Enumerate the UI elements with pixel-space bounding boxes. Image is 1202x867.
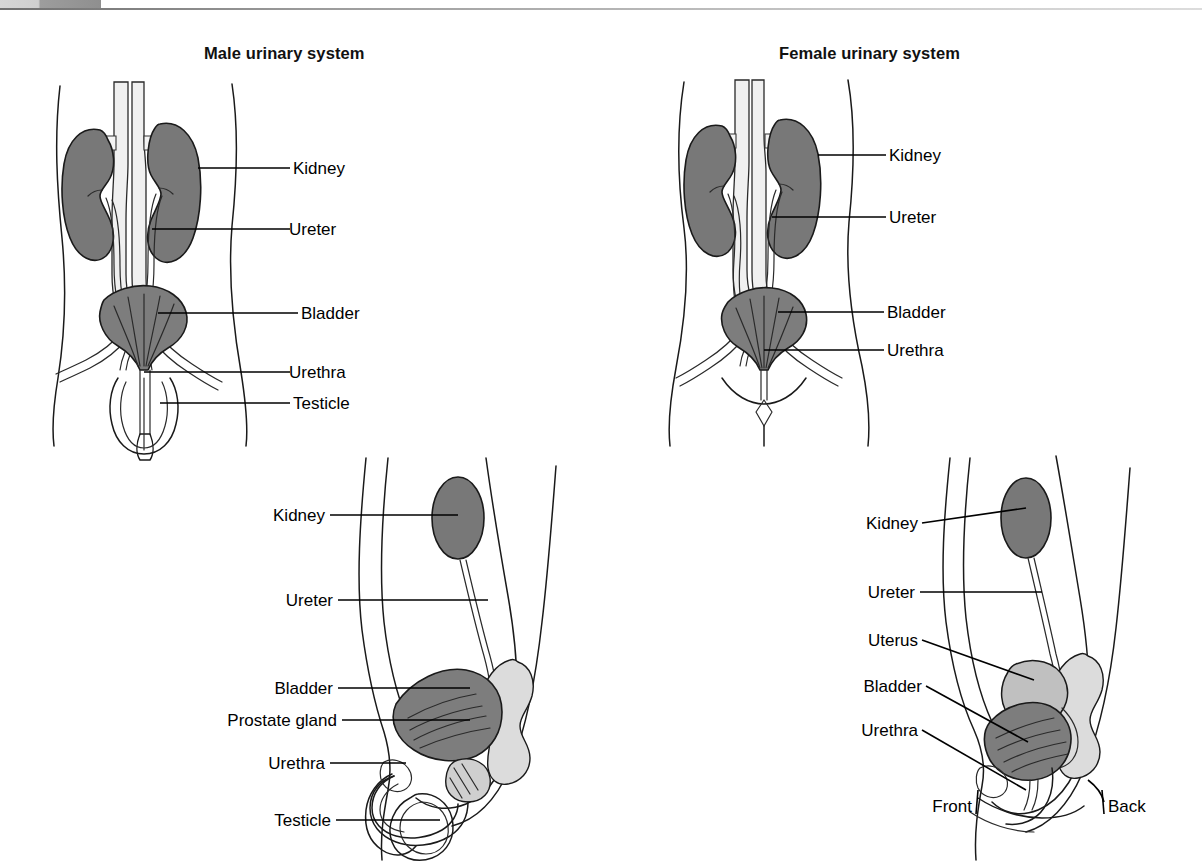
male-side-labels: Kidney Ureter Bladder Prostate gland Ure… <box>227 506 337 830</box>
female-front-urethra-perineum <box>722 370 806 446</box>
label-ureter: Ureter <box>286 591 334 610</box>
label-bladder: Bladder <box>887 303 946 322</box>
male-front-labels: Kidney Ureter Bladder Urethra Testicle <box>289 159 360 413</box>
label-urethra: Urethra <box>887 341 944 360</box>
page-title-male-urinary-system: Male urinary system <box>204 44 365 63</box>
label-testicle: Testicle <box>274 811 331 830</box>
page-title-female-urinary-system: Female urinary system <box>779 44 960 63</box>
female-front-kidney-right <box>768 119 821 258</box>
male-front-urethra-penis-scrotum <box>110 370 178 460</box>
label-testicle: Testicle <box>293 394 350 413</box>
male-front-bladder <box>100 286 187 370</box>
label-back: Back <box>1108 797 1146 816</box>
label-prostate-gland: Prostate gland <box>227 711 337 730</box>
label-urethra: Urethra <box>289 363 346 382</box>
figure-male-urinary-side-view: Kidney Ureter Bladder Prostate gland Ure… <box>170 450 600 865</box>
male-front-kidney-left <box>62 129 114 260</box>
female-front-kidney-left <box>684 125 736 256</box>
figure-male-urinary-front-view: Kidney Ureter Bladder Urethra Testicle <box>40 78 460 448</box>
male-side-kidney <box>432 477 484 559</box>
label-bladder: Bladder <box>863 677 922 696</box>
label-uterus: Uterus <box>868 631 918 650</box>
label-bladder: Bladder <box>301 304 360 323</box>
label-kidney: Kidney <box>866 514 918 533</box>
label-kidney: Kidney <box>273 506 325 525</box>
figure-female-urinary-side-view: Kidney Ureter Uterus Bladder Urethra Fro… <box>830 450 1202 865</box>
male-side-testicle-scrotum <box>390 794 453 861</box>
label-ureter: Ureter <box>289 220 337 239</box>
male-side-bladder <box>393 669 502 760</box>
male-side-prostate-gland <box>446 759 491 802</box>
figure-female-urinary-front-view: Kidney Ureter Bladder Urethra <box>650 78 1070 448</box>
label-kidney: Kidney <box>293 159 345 178</box>
male-front-kidney-right <box>148 123 201 262</box>
label-ureter: Ureter <box>889 208 937 227</box>
label-urethra: Urethra <box>861 721 918 740</box>
male-side-pubic-bone <box>380 760 411 792</box>
female-front-labels: Kidney Ureter Bladder Urethra <box>887 146 946 360</box>
female-side-labels: Kidney Ureter Uterus Bladder Urethra <box>861 514 922 740</box>
label-urethra: Urethra <box>268 754 325 773</box>
female-side-orientation-markers: Front Back <box>932 780 1146 816</box>
label-kidney: Kidney <box>889 146 941 165</box>
header-rule <box>0 8 1202 10</box>
label-ureter: Ureter <box>868 583 916 602</box>
female-side-kidney <box>1001 478 1051 558</box>
label-front: Front <box>932 797 972 816</box>
diagram-page: Male urinary system Female urinary syste… <box>0 0 1202 867</box>
label-bladder: Bladder <box>274 679 333 698</box>
